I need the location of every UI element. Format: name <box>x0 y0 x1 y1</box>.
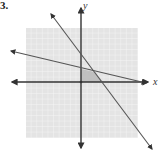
grid <box>26 28 138 138</box>
x-axis-label: x <box>152 76 158 87</box>
y-axis-label: y <box>82 0 88 11</box>
origin-point <box>80 81 83 84</box>
coordinate-graph: y x <box>0 0 159 152</box>
